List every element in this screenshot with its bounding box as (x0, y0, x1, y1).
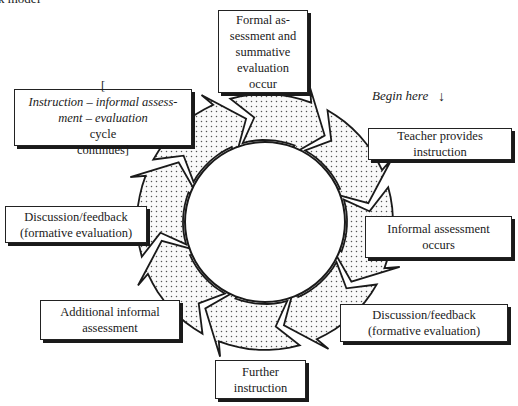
step-text-line: sessment and (230, 28, 296, 44)
begin-arrow-icon: ↓ (438, 89, 445, 105)
step-text-line: assessment (60, 320, 160, 336)
step-box-additional-informal: Additional informal assessment (40, 300, 180, 340)
italic-text: ment – evaluation (29, 110, 178, 126)
step-text-line: Discussion/feedback (20, 209, 132, 225)
step-box-formal-assessment: Formal as- sessment and summative evalua… (218, 10, 308, 93)
step-text-line: Formal as- (230, 12, 296, 28)
step-text-line: Informal assessment (387, 221, 489, 237)
italic-text: Instruction – informal assess- (29, 94, 178, 110)
ring-center-hole (185, 142, 345, 302)
figure-title-fragment: k model (0, 0, 40, 7)
step-text-line: occur (230, 76, 296, 92)
step-box-further-instruction: Further instruction (215, 360, 306, 399)
step-text-line: Teacher provides instruction (373, 128, 507, 160)
step-text-line: Further (234, 364, 287, 380)
step-text-line: occurs (387, 237, 489, 253)
step-text-line: instruction (234, 380, 287, 396)
step-box-teacher-instruction: Teacher provides instruction (368, 128, 512, 160)
step-text-line: summative (230, 44, 296, 60)
step-text-line: ment – evaluation cycle (29, 110, 178, 142)
begin-here-label: Begin here (372, 88, 428, 104)
step-text-line: evaluation (230, 60, 296, 76)
bracket: [ (29, 78, 178, 94)
step-text-line: Additional informal (60, 304, 160, 320)
step-text-line: (formative evaluation) (20, 225, 132, 241)
step-box-informal-assessment: Informal assessment occurs (365, 216, 512, 258)
step-text-line: Discussion/feedback (368, 307, 480, 323)
step-box-cycle-continues: [Instruction – informal assess- ment – e… (14, 89, 192, 146)
step-text-line: (formative evaluation) (368, 323, 480, 339)
plain-text: cycle (29, 126, 178, 142)
step-text-line: [Instruction – informal assess- (29, 78, 178, 110)
step-box-discussion-left: Discussion/feedback (formative evaluatio… (5, 206, 147, 243)
step-box-discussion-right: Discussion/feedback (formative evaluatio… (340, 304, 508, 342)
step-text-line: continues] (29, 142, 178, 158)
